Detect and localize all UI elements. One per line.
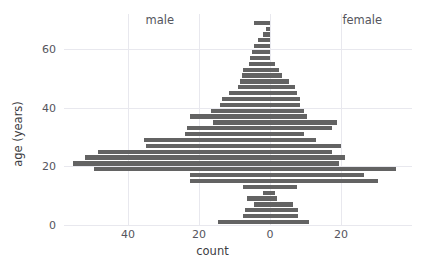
gridline-vertical-40 bbox=[128, 14, 129, 225]
bar-female-4-6 bbox=[270, 208, 298, 212]
bar-male-52-54 bbox=[243, 68, 270, 72]
bar-female-0-2 bbox=[270, 220, 309, 224]
bar-male-4-6 bbox=[245, 208, 270, 212]
bar-female-8-10 bbox=[270, 196, 277, 200]
bar-female-16-18 bbox=[270, 173, 364, 177]
bar-male-38-40 bbox=[211, 109, 270, 113]
bar-female-20-22 bbox=[270, 161, 339, 165]
bar-female-48-50 bbox=[270, 79, 290, 83]
gridline-vertical-20 bbox=[199, 14, 200, 225]
bar-female-26-28 bbox=[270, 144, 341, 148]
bar-female-44-46 bbox=[270, 91, 297, 95]
gridline-vertical-20 bbox=[341, 14, 342, 225]
bar-male-42-44 bbox=[222, 97, 270, 101]
bar-male-62-64 bbox=[258, 38, 270, 42]
bar-male-22-24 bbox=[85, 155, 270, 159]
bar-male-34-36 bbox=[213, 120, 270, 124]
bar-male-60-62 bbox=[254, 44, 270, 48]
x-tick-label-1: 20 bbox=[192, 228, 206, 241]
x-tick-label-2: 0 bbox=[266, 228, 273, 241]
bar-male-44-46 bbox=[229, 91, 270, 95]
y-tick-label-0: 0 bbox=[49, 219, 56, 232]
bar-female-10-12 bbox=[270, 191, 275, 195]
bar-male-50-52 bbox=[242, 73, 270, 77]
bar-male-30-32 bbox=[185, 132, 270, 136]
bar-male-24-26 bbox=[98, 150, 270, 154]
bar-male-12-14 bbox=[243, 185, 270, 189]
annotation-male: male bbox=[146, 13, 175, 27]
bar-male-68-70 bbox=[254, 21, 270, 25]
bar-male-28-30 bbox=[144, 138, 270, 142]
bar-female-36-38 bbox=[270, 114, 307, 118]
bar-female-6-8 bbox=[270, 202, 293, 206]
y-tick-label-1: 20 bbox=[42, 160, 56, 173]
bar-male-2-4 bbox=[243, 214, 270, 218]
plot-area: malefemale bbox=[64, 14, 412, 225]
bar-male-26-28 bbox=[146, 144, 270, 148]
bar-female-30-32 bbox=[270, 132, 304, 136]
bar-male-40-42 bbox=[220, 103, 270, 107]
bar-male-16-18 bbox=[190, 173, 270, 177]
x-tick-label-3: 20 bbox=[334, 228, 348, 241]
bar-male-10-12 bbox=[263, 191, 270, 195]
bar-female-38-40 bbox=[270, 109, 304, 113]
bar-female-24-26 bbox=[270, 150, 332, 154]
bar-female-46-48 bbox=[270, 85, 295, 89]
x-axis-title: count bbox=[0, 244, 425, 258]
bar-female-40-42 bbox=[270, 103, 300, 107]
bar-female-12-14 bbox=[270, 185, 297, 189]
bar-male-32-34 bbox=[187, 126, 270, 130]
gridline-horizontal-60 bbox=[64, 49, 412, 50]
y-tick-label-2: 40 bbox=[42, 101, 56, 114]
bar-male-64-66 bbox=[263, 32, 270, 36]
bar-male-18-20 bbox=[94, 167, 270, 171]
bar-male-20-22 bbox=[73, 161, 270, 165]
annotation-female: female bbox=[342, 13, 382, 27]
bar-male-56-58 bbox=[250, 56, 270, 60]
bar-male-46-48 bbox=[238, 85, 270, 89]
bar-male-54-56 bbox=[249, 62, 270, 66]
bar-female-52-54 bbox=[270, 68, 279, 72]
x-tick-label-0: 40 bbox=[121, 228, 135, 241]
bar-female-2-4 bbox=[270, 214, 298, 218]
bar-female-32-34 bbox=[270, 126, 332, 130]
bar-female-18-20 bbox=[270, 167, 396, 171]
bar-female-34-36 bbox=[270, 120, 337, 124]
bar-male-0-2 bbox=[218, 220, 269, 224]
gridline-horizontal-0 bbox=[64, 225, 412, 226]
y-axis-title: age (years) bbox=[11, 64, 25, 204]
bar-male-8-10 bbox=[247, 196, 270, 200]
bar-female-28-30 bbox=[270, 138, 316, 142]
bar-male-14-16 bbox=[190, 179, 270, 183]
bar-male-36-38 bbox=[190, 114, 270, 118]
bar-male-48-50 bbox=[240, 79, 270, 83]
bar-female-14-16 bbox=[270, 179, 378, 183]
bar-female-22-24 bbox=[270, 155, 345, 159]
y-tick-label-3: 60 bbox=[42, 43, 56, 56]
bar-male-66-68 bbox=[266, 27, 270, 31]
bar-female-50-52 bbox=[270, 73, 282, 77]
bar-female-42-44 bbox=[270, 97, 300, 101]
bar-female-54-56 bbox=[270, 62, 275, 66]
population-pyramid-chart: malefemale 4020020 0204060 count age (ye… bbox=[0, 0, 425, 268]
bar-male-6-8 bbox=[254, 202, 270, 206]
bar-male-58-60 bbox=[252, 50, 270, 54]
